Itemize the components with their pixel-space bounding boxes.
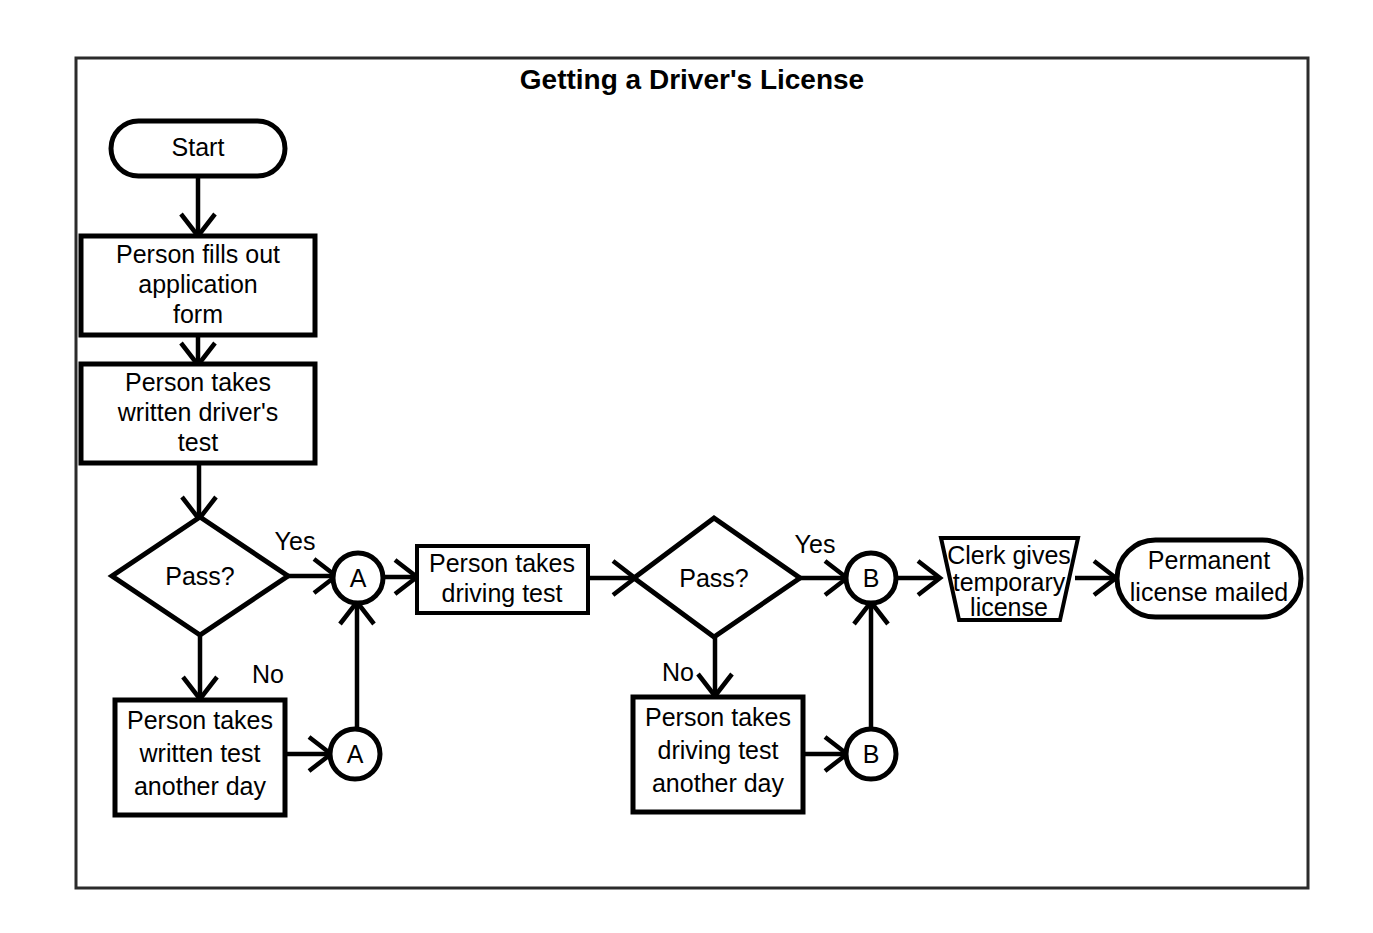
node-connector-a-upper[interactable]: A [333,553,383,603]
node-driving-test-line1: Person takes [429,549,575,577]
node-fill-application-form[interactable]: Person fills out application form [81,236,315,335]
node-retake-driving-test[interactable]: Person takes driving test another day [633,697,803,812]
node-written-drivers-test-line1: Person takes [125,368,271,396]
node-connector-a-upper-label: A [350,564,367,592]
edge-retakedriving-to-connector-b-low [803,737,847,771]
node-temporary-license[interactable]: Clerk gives temporary license [941,538,1078,621]
node-temporary-license-line3: license [970,593,1048,621]
node-connector-b-upper[interactable]: B [846,553,896,603]
node-driving-test-line2: driving test [442,579,563,607]
edge-drivingtest-to-pass2 [588,561,635,595]
node-start-label: Start [172,133,225,161]
node-retake-driving-test-line3: another day [652,769,785,797]
node-retake-driving-test-line2: driving test [658,736,779,764]
edge-label-no-driving: No [662,658,694,686]
node-temporary-license-line1: Clerk gives [947,541,1071,569]
node-connector-b-upper-label: B [863,564,880,592]
node-connector-b-lower[interactable]: B [846,729,896,779]
edge-pass2-no-to-retake-driving [698,637,732,696]
flowchart-canvas: Getting a Driver's License Yes No [0,0,1373,933]
node-retake-written-test-line1: Person takes [127,706,273,734]
edge-connector-a-to-drivingtest [382,560,417,594]
node-decision-pass-written-label: Pass? [165,562,234,590]
node-retake-driving-test-line1: Person takes [645,703,791,731]
node-written-drivers-test-line3: test [178,428,218,456]
edge-connector-b-low-to-top [854,602,888,730]
node-connector-a-lower-label: A [347,740,364,768]
node-driving-test[interactable]: Person takes driving test [417,546,588,613]
node-decision-pass-written[interactable]: Pass? [112,517,288,635]
node-permanent-license-mailed-line1: Permanent [1148,546,1270,574]
node-written-drivers-test[interactable]: Person takes written driver's test [81,364,315,463]
node-fill-application-form-line2: application [138,270,258,298]
node-retake-written-test[interactable]: Person takes written test another day [115,700,285,815]
node-connector-b-lower-label: B [863,740,880,768]
edge-pass1-yes-to-connector-a [288,559,336,593]
edge-retakewritten-to-connector-a-low [285,737,331,771]
edge-writtentest-to-pass1 [182,464,216,519]
node-fill-application-form-line1: Person fills out [116,240,280,268]
flowchart-svg: Getting a Driver's License Yes No [0,0,1373,933]
edge-label-no-written: No [252,660,284,688]
edge-connector-a-low-to-top [340,602,374,730]
node-written-drivers-test-line2: written driver's [117,398,278,426]
edge-label-yes-driving: Yes [795,530,836,558]
edge-templicense-to-permanent [1075,561,1116,595]
edge-pass2-yes-to-connector-b [800,561,847,595]
node-retake-written-test-line3: another day [134,772,267,800]
node-temporary-license-line2: temporary [953,568,1066,596]
node-fill-application-form-line3: form [173,300,223,328]
edge-start-to-fillform [181,176,215,236]
edge-label-yes-written: Yes [275,527,316,555]
node-permanent-license-mailed-line2: license mailed [1130,578,1288,606]
node-retake-written-test-line2: written test [139,739,261,767]
edge-pass1-no-to-retake-written [183,636,217,699]
node-start[interactable]: Start [111,121,285,176]
node-decision-pass-driving[interactable]: Pass? [634,518,800,637]
edge-connector-b-to-templicense [895,561,940,595]
node-decision-pass-driving-label: Pass? [679,564,748,592]
edge-fillform-to-writtentest [181,336,215,365]
page-title: Getting a Driver's License [520,64,864,95]
node-connector-a-lower[interactable]: A [330,729,380,779]
node-permanent-license-mailed[interactable]: Permanent license mailed [1117,540,1301,617]
